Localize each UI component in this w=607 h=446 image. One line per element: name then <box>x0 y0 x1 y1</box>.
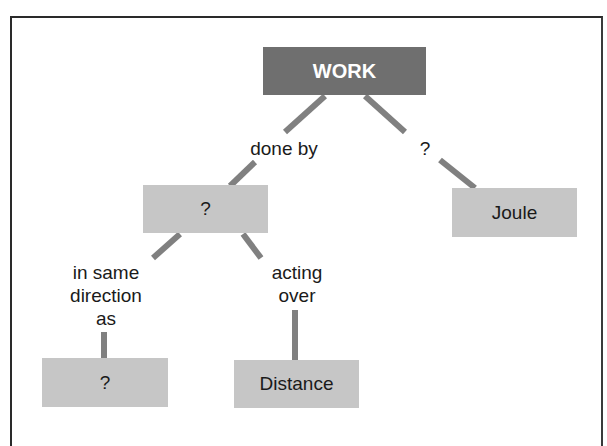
link-label-line: direction <box>46 284 166 307</box>
node-distance: Distance <box>234 360 359 408</box>
connector-root-agent-lower <box>230 162 255 186</box>
link-label-line: as <box>46 307 166 330</box>
node-direction-unknown: ? <box>42 358 168 407</box>
node-work: WORK <box>263 47 426 95</box>
connector-root-agent-upper <box>285 96 325 132</box>
link-label-acting-over: acting over <box>250 261 344 307</box>
connector-root-unit-lower <box>440 160 475 188</box>
link-label-line: in same <box>46 261 166 284</box>
link-label-line: acting <box>252 261 342 284</box>
connector-root-unit-upper <box>365 96 405 132</box>
link-label-unit-question: ? <box>412 137 438 160</box>
connector-agent-direction-upper <box>153 234 180 258</box>
link-label-done-by: done by <box>232 137 336 160</box>
link-label-in-same-direction-as: in same direction as <box>44 261 168 330</box>
node-joule: Joule <box>452 188 577 237</box>
node-agent-unknown: ? <box>143 185 268 233</box>
connector-agent-distance-upper <box>243 234 261 258</box>
link-label-line: over <box>252 284 342 307</box>
